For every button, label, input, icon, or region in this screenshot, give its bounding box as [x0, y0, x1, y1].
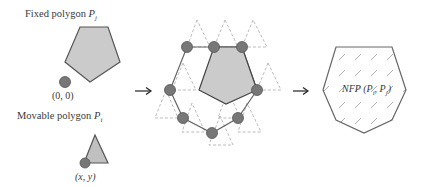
arrow-icon	[135, 88, 151, 95]
nfp-label: NFP (Pi, Pj)	[342, 83, 391, 97]
nfp-suffix: )	[388, 83, 391, 94]
fixed-polygon-middle	[199, 47, 257, 104]
fixed-label-text: Fixed polygon	[25, 8, 89, 19]
movable-label-text: Movable polygon	[17, 110, 94, 121]
origin-label: (0, 0)	[52, 90, 74, 101]
reference-point-label: (x, y)	[75, 171, 96, 182]
fixed-polygon	[65, 27, 120, 82]
arrow-icon	[293, 88, 308, 95]
fixed-subscript: j	[95, 14, 97, 22]
movable-polygon-label: Movable polygon Pi	[17, 110, 102, 124]
origin-dot	[60, 77, 71, 88]
fixed-polygon-label: Fixed polygon Pj	[25, 8, 97, 22]
reference-dot	[80, 158, 90, 168]
movable-subscript: i	[100, 116, 102, 124]
nfp-prefix: NFP (	[342, 83, 367, 94]
